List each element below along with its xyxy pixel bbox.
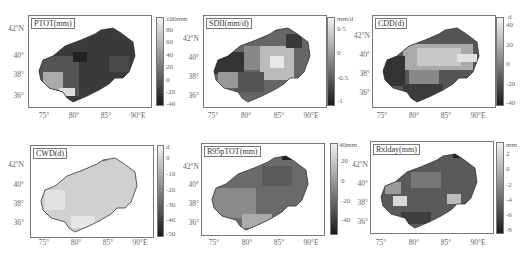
x-tick: 80°	[234, 111, 258, 120]
colorbar	[156, 17, 164, 106]
colorbar	[496, 142, 504, 234]
x-tick: 75°	[32, 238, 56, 247]
x-tick: 85°	[267, 111, 291, 120]
colorbar-unit: mm	[506, 141, 517, 149]
panel-ptot: PTOT(mm) 42°N 40° 38° 36° 75° 80° 85° 90…	[0, 0, 175, 125]
map-frame: PTOT(mm)	[28, 15, 152, 108]
colorbar-label: 0.5	[337, 25, 346, 33]
colorbar-label: -40	[166, 216, 175, 224]
panel-sdii: SDII(mm/d) 42°N 40° 38° 36° 75° 80° 85° …	[175, 0, 350, 125]
map-frame: CDD(d)	[372, 15, 496, 108]
x-tick: 90°E	[126, 111, 150, 120]
y-tick: 40°	[175, 53, 199, 62]
heatmap	[373, 16, 496, 108]
x-tick: 80°	[64, 238, 88, 247]
x-tick: 85°	[434, 111, 458, 120]
y-tick: 40°	[175, 180, 199, 189]
colorbar-label: 0	[166, 76, 170, 84]
y-tick: 42°N	[344, 160, 368, 169]
x-tick: 85°	[94, 111, 118, 120]
colorbar-label: -8	[506, 226, 512, 234]
map-frame: CWD(d)	[30, 145, 154, 238]
heatmap	[202, 144, 325, 236]
y-tick: 36°	[175, 218, 199, 227]
x-tick: 90°E	[128, 238, 152, 247]
panel-title: PTOT(mm)	[31, 18, 75, 29]
colorbar-label: 40	[166, 51, 173, 59]
x-tick: 85°	[434, 238, 458, 247]
colorbar-label: -4	[506, 196, 512, 204]
map-frame: SDII(mm/d)	[203, 15, 327, 108]
y-tick: 36°	[0, 218, 24, 227]
panel-title: Rxlday(mm)	[373, 144, 420, 155]
colorbar-label: -2	[506, 181, 512, 189]
panel-title: CWD(d)	[33, 148, 67, 159]
panel-r95ptot: R95pTOT(mm) 42°N 40° 38° 36° 75° 80° 85°…	[175, 127, 350, 252]
colorbar-label: 40	[506, 21, 513, 29]
x-tick: 75°	[201, 111, 225, 120]
colorbar-label: 60	[166, 38, 173, 46]
x-tick: 75°	[369, 238, 393, 247]
colorbar-label: -1	[337, 97, 343, 105]
x-tick: 80°	[62, 111, 86, 120]
y-tick: 40°	[346, 50, 370, 59]
colorbar-label: -30	[166, 201, 175, 209]
y-tick: 40°	[0, 180, 24, 189]
heatmap	[31, 146, 154, 238]
colorbar	[327, 17, 335, 106]
y-tick: 38°	[346, 69, 370, 78]
colorbar-label: -20	[166, 88, 175, 96]
x-tick: 85°	[96, 238, 120, 247]
y-tick: 42°N	[346, 31, 370, 40]
colorbar-label: 20	[506, 41, 513, 49]
panel-cwd: CWD(d) 42°N 40° 38° 36° 75° 80° 85° 90°E…	[0, 127, 175, 252]
y-tick: 36°	[175, 91, 199, 100]
x-tick: 80°	[402, 111, 426, 120]
x-tick: 75°	[202, 238, 226, 247]
panel-title: SDII(mm/d)	[206, 18, 252, 29]
x-tick: 85°	[267, 238, 291, 247]
colorbar-label: -50	[166, 230, 175, 238]
colorbar	[496, 17, 504, 106]
x-tick: 75°	[370, 111, 394, 120]
x-tick: 90°E	[466, 111, 490, 120]
colorbar-label: 20	[166, 63, 173, 71]
y-tick: 38°	[344, 198, 368, 207]
y-tick: 42°N	[175, 162, 199, 171]
y-tick: 36°	[344, 217, 368, 226]
y-tick: 38°	[0, 199, 24, 208]
y-tick: 40°	[344, 179, 368, 188]
map-frame: Rxlday(mm)	[370, 141, 494, 234]
colorbar-label: 2	[506, 150, 510, 158]
panel-cdd: CDD(d) 42°N 40° 38° 36° 75° 80° 85° 90°E…	[350, 0, 525, 125]
colorbar-label: 0	[337, 49, 341, 57]
y-tick: 42°N	[0, 24, 24, 33]
panel-rx1day: Rxlday(mm) 42°N 40° 38° 36° 75° 80° 85° …	[350, 127, 525, 252]
x-tick: 90°E	[299, 238, 323, 247]
x-tick: 80°	[402, 238, 426, 247]
y-tick: 42°N	[0, 160, 24, 169]
colorbar-label: 0	[506, 165, 510, 173]
map-frame: R95pTOT(mm)	[201, 143, 325, 236]
y-tick: 36°	[346, 88, 370, 97]
heatmap	[204, 16, 327, 108]
colorbar-label: 80	[166, 26, 173, 34]
colorbar-unit: d	[508, 13, 512, 21]
y-tick: 36°	[0, 91, 24, 100]
colorbar	[330, 143, 338, 235]
y-tick: 38°	[175, 199, 199, 208]
colorbar-unit: d	[166, 143, 170, 151]
x-tick: 90°E	[466, 238, 490, 247]
colorbar-label: 0	[166, 154, 170, 162]
colorbar-label: -6	[506, 211, 512, 219]
y-tick: 40°	[0, 51, 24, 60]
heatmap	[29, 16, 152, 108]
y-tick: 38°	[175, 72, 199, 81]
colorbar-label: -20	[166, 186, 175, 194]
colorbar-label: -10	[166, 170, 175, 178]
colorbar-label: -40	[166, 100, 175, 108]
colorbar-label: -20	[506, 80, 515, 88]
x-tick: 80°	[235, 238, 259, 247]
heatmap	[371, 142, 494, 234]
colorbar-label: 0	[506, 60, 510, 68]
